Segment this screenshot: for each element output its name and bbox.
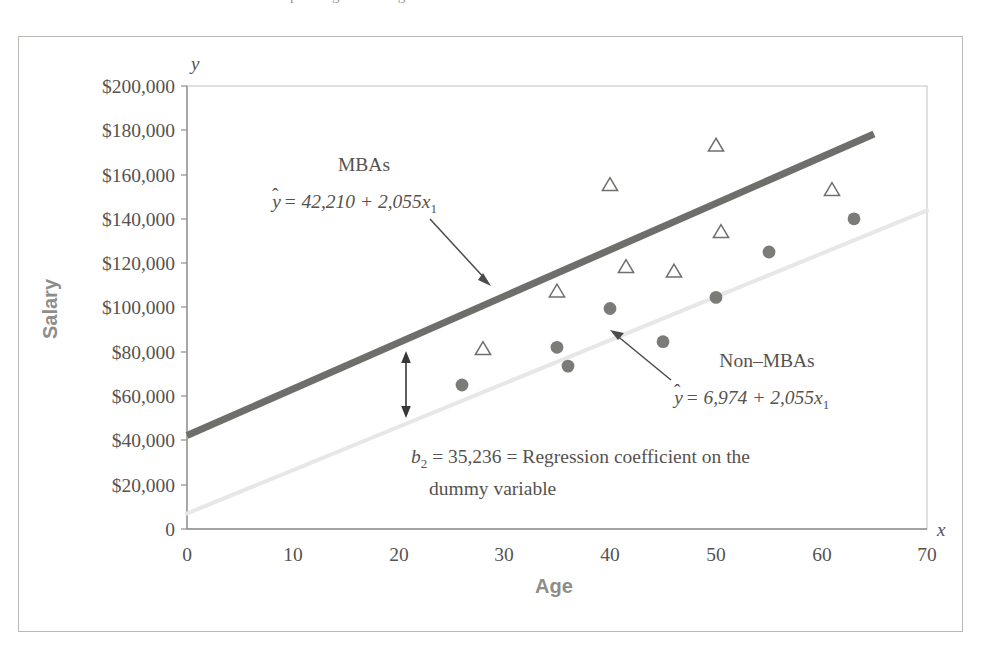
subscript-one: 1 [823,397,830,412]
x-tick-label: 30 [494,544,514,565]
x-tick-label: 70 [917,544,937,565]
y-tick-label: $80,000 [112,342,175,363]
y-tick-marks [181,86,187,529]
y-tick-label: $120,000 [102,253,175,274]
x-tick-labels: 0 10 20 30 40 50 60 70 [182,544,937,565]
data-point-circle [763,246,776,259]
scatter-chart: $200,000 $180,000 $160,000 $140,000 $120… [19,37,964,633]
y-tick-label: $140,000 [102,209,175,230]
y-tick-label: 0 [165,519,175,540]
y-tick-label: $200,000 [102,76,175,97]
x-tick-label: 40 [600,544,620,565]
equation-body: = 42,210 + 2,055x [279,191,431,212]
annotation-dummy-line2: dummy variable [429,478,556,499]
y-tick-label: $60,000 [112,386,175,407]
figure-page: a plotting of the regression lines for t… [0,0,982,655]
x-tick-label: 60 [812,544,832,565]
y-tick-labels: $200,000 $180,000 $160,000 $140,000 $120… [102,76,175,540]
cropped-caption-fragment: a plotting of the regression lines for t… [0,0,982,14]
data-point-circle [848,212,861,225]
data-point-circle [562,360,575,373]
data-point-circle [456,379,469,392]
subscript-one: 1 [430,201,437,216]
x-axis-title: Age [535,575,573,597]
annotation-mbas-title: MBAs [338,154,390,175]
equation-body: = 6,974 + 2,055x [681,387,824,408]
figure-border: $200,000 $180,000 $160,000 $140,000 $120… [18,36,963,632]
data-point-circle [604,302,617,315]
b-symbol: b [411,446,421,467]
y-axis-variable-label: y [189,53,200,74]
y-tick-label: $180,000 [102,120,175,141]
x-tick-label: 50 [706,544,726,565]
x-axis-variable-label: x [936,519,946,540]
x-tick-label: 20 [389,544,409,565]
x-tick-label: 10 [283,544,303,565]
y-axis-title: Salary [39,278,61,339]
data-point-circle [710,291,723,304]
dummy-text: = 35,236 = Regression coefficient on the [427,446,750,467]
y-tick-label: $160,000 [102,165,175,186]
y-tick-label: $100,000 [102,297,175,318]
y-tick-label: $20,000 [112,475,175,496]
data-point-circle [551,341,564,354]
data-point-circle [657,335,670,348]
annotation-non-mbas-title: Non–MBAs [719,350,814,371]
x-tick-label: 0 [182,544,192,565]
y-tick-label: $40,000 [112,430,175,451]
